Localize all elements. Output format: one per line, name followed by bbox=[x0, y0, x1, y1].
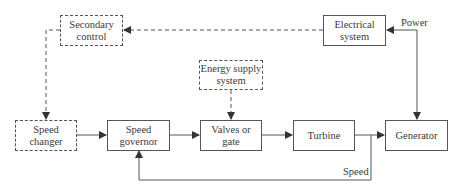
turbine-label: Turbine bbox=[308, 130, 341, 142]
generator-block: Generator bbox=[385, 120, 448, 151]
speed-changer-block: Speedchanger bbox=[15, 120, 77, 151]
speed-governor-label-2: governor bbox=[120, 136, 158, 147]
electrical-system-label-2: system bbox=[340, 31, 369, 42]
speed-edge-label: Speed bbox=[343, 166, 369, 177]
valves-gate-label: Valves or bbox=[211, 124, 250, 135]
valves-gate-block: Valves orgate bbox=[200, 120, 262, 151]
electrical-system-label: Electrical bbox=[334, 19, 374, 30]
speed-governor-block: Speedgovernor bbox=[107, 120, 170, 151]
valves-gate-label-2: gate bbox=[222, 136, 240, 147]
secondary-control-block: Secondarycontrol bbox=[60, 15, 123, 46]
power-edge-label: Power bbox=[401, 17, 428, 28]
electrical-system-block: Electricalsystem bbox=[323, 15, 386, 46]
secondary-control-label: Secondary bbox=[69, 19, 113, 30]
speed-governor-label: Speed bbox=[126, 124, 152, 135]
edge-secondary-to-changer bbox=[46, 30, 60, 119]
turbine-block: Turbine bbox=[293, 120, 355, 151]
energy-supply-label-2: system bbox=[216, 75, 245, 86]
secondary-control-label-2: control bbox=[77, 31, 107, 42]
generator-label: Generator bbox=[396, 130, 438, 142]
energy-supply-block: Energy supplysystem bbox=[199, 60, 263, 90]
speed-changer-label-2: changer bbox=[29, 136, 62, 147]
speed-changer-label: Speed bbox=[33, 124, 59, 135]
energy-supply-label: Energy supply bbox=[201, 63, 262, 74]
